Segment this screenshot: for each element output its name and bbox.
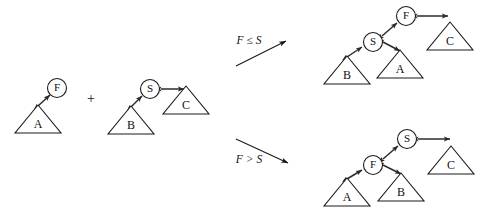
- triangle-C-lower-label: C: [447, 158, 455, 172]
- node-F-upper-label: F: [403, 9, 409, 21]
- edge-B-to-S: [131, 96, 142, 107]
- triangle-C-upper-label: C: [446, 34, 454, 48]
- node-S-upper-label: S: [370, 35, 376, 47]
- edge-S-to-F-upper: [382, 23, 397, 36]
- edge-F-to-S-lower: [383, 146, 398, 159]
- edge-A-to-S-upper: [383, 42, 400, 51]
- triangle-C-label: C: [182, 98, 190, 112]
- condition-upper: F ≤ S: [236, 34, 286, 66]
- result-tree-lower: A B C F S: [324, 130, 474, 207]
- node-S-lower-label: S: [404, 132, 410, 144]
- condition-lower-label: F > S: [235, 153, 263, 165]
- triangle-B-upper-label: B: [343, 68, 351, 82]
- triangle-B-lower-label: B: [397, 185, 405, 199]
- edge-A-to-F: [38, 95, 50, 106]
- condition-upper-label: F ≤ S: [236, 34, 262, 46]
- plus-operator: +: [87, 91, 95, 106]
- result-tree-upper: B A C S F: [324, 7, 473, 85]
- edge-B-to-S-upper: [347, 47, 362, 57]
- edge-B-to-F-lower: [383, 165, 401, 174]
- triangle-A-lower-label: A: [343, 190, 352, 204]
- input-tree-right: B C S: [108, 80, 209, 135]
- condition-lower: F > S: [235, 139, 288, 165]
- edge-A-to-F-lower: [347, 170, 362, 179]
- node-S-input-label: S: [147, 82, 153, 94]
- node-F-input-label: F: [54, 81, 60, 93]
- node-F-lower-label: F: [370, 158, 376, 170]
- triangle-B-label: B: [127, 118, 135, 132]
- triangle-A-label: A: [34, 117, 43, 131]
- input-tree-left: A F: [15, 79, 67, 134]
- diagram-canvas: A F + B C S F ≤ S F > S: [0, 0, 479, 222]
- triangle-A-upper-label: A: [396, 62, 405, 76]
